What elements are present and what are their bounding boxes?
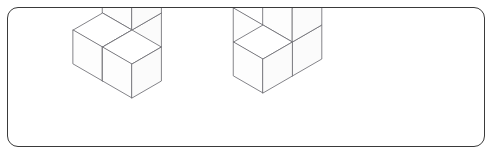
rounded-border-frame [7,7,485,147]
figure-right-cubes [234,8,322,93]
figure-right [8,8,486,148]
screenshot-canvas [0,0,494,156]
